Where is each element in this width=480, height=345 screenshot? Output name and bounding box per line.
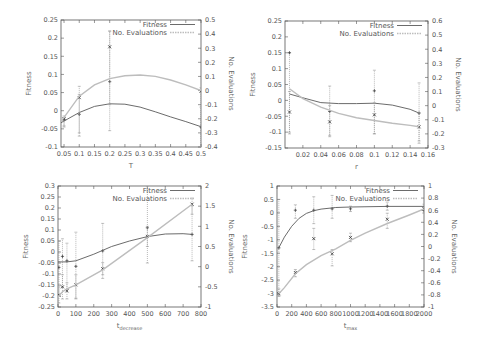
figure-grid: 0.050.10.150.20.250.30.350.40.450.5-0.1-… [0,0,480,345]
x-tick-label: 0.02 [296,151,310,159]
y2-tick-label: 1 [428,182,432,190]
y-tick-label: -1.5 [261,250,274,258]
y-tick-label: 1 [270,182,274,190]
fitness-marker [277,246,280,249]
y-axis-label: Fitness [25,71,33,96]
y2-axis-label: No. Evaluations [454,57,462,112]
y-tick-label: 0.1 [272,65,282,73]
y-tick-label: -0.2 [42,292,55,300]
fitness-curve [290,94,420,113]
x-tick-label: 400 [123,310,135,318]
y2-tick-label: 0 [205,263,209,271]
x-tick-label: 0.4 [165,150,175,158]
y2-tick-label: 0.6 [432,17,442,25]
y-tick-label: 0 [54,107,58,115]
y-axis-label: Fitness [249,72,257,97]
fitness-marker [74,265,77,268]
y2-tick-label: 0 [428,243,432,251]
y-tick-label: -0.1 [42,270,55,278]
x-axis-label: tdecrease [117,322,143,331]
y2-tick-label: 2 [205,182,209,190]
y2-tick-label: -0.5 [205,283,218,291]
y-tick-label: -0.05 [265,113,282,121]
x-tick-label: 700 [177,310,189,318]
fitness-curve [61,104,201,127]
x-tick-label: 400 [300,310,312,318]
y2-tick-label: 0.2 [432,74,442,82]
y-tick-label: 0.5 [264,196,274,204]
y2-tick-label: 0.5 [205,243,215,251]
y-tick-label: 0.15 [44,53,58,61]
y2-tick-label: -0.3 [205,129,218,137]
legend-entry: Fitness [143,21,168,29]
x-tick-label: 600 [159,310,171,318]
x-tick-label: 200 [88,310,100,318]
y2-tick-label: 0.8 [428,194,438,202]
y-tick-label: -0.05 [38,259,55,267]
x-tick-label: 0.12 [385,151,399,159]
x-tick-label: 0.25 [118,150,132,158]
x-tick-label: 800 [330,310,342,318]
evaluations-marker [312,237,315,240]
y2-tick-label: -0.2 [205,115,218,123]
x-tick-label: 0.14 [403,151,417,159]
y2-axis-label: No. Evaluations [227,56,235,111]
y2-tick-label: -1 [428,303,434,311]
y-tick-label: 0.3 [45,182,55,190]
x-axis-label: tmax [344,322,358,331]
y2-axis-label: No. Evaluations [227,219,235,274]
x-tick-label: 0.35 [148,150,162,158]
legend-entry: No. Evaluations [336,195,391,203]
fitness-marker [288,51,291,54]
y-tick-label: -2 [268,263,274,271]
x-tick-label: 0.1 [74,150,84,158]
y2-tick-label: -0.3 [432,144,445,152]
y2-tick-label: 0.2 [428,231,438,239]
y-tick-label: 0 [270,209,274,217]
y2-tick-label: -0.2 [432,130,445,138]
fitness-marker [349,207,352,210]
legend-entry: Fitness [366,187,391,195]
y2-tick-label: 0.4 [428,219,438,227]
y2-tick-label: 0.4 [205,30,215,38]
y-tick-label: -0.5 [261,223,274,231]
y2-tick-label: 0 [432,102,436,110]
x-tick-label: 0 [56,310,60,318]
legend-entry: No. Evaluations [340,30,395,38]
plot-frame [277,186,424,307]
plot-frame [285,21,428,148]
y-tick-label: 0.2 [48,34,58,42]
plot-tmax: 0200400600800100012001400160018002000-3.… [241,182,458,331]
plot-tdecrease: 0100200300400500600700800-0.25-0.2-0.15-… [22,182,235,331]
x-tick-label: 0.08 [349,151,363,159]
plot-frame [58,186,201,307]
y2-tick-label: -0.6 [428,279,441,287]
y-tick-label: 0.2 [45,204,55,212]
x-tick-label: 0.04 [314,151,328,159]
y2-tick-label: 0.2 [205,59,215,67]
y2-tick-label: 0.5 [432,31,442,39]
legend-entry: No. Evaluations [113,29,168,37]
y-tick-label: 0.15 [41,215,55,223]
legend-entry: No. Evaluations [113,195,168,203]
y-tick-label: -1 [268,236,274,244]
x-tick-label: 0.3 [135,150,145,158]
x-tick-label: 0.1 [369,151,379,159]
y-tick-label: -3 [268,290,274,298]
fitness-marker [61,255,64,258]
plot-r: 0.020.040.060.080.10.120.140.16-0.15-0.1… [249,17,462,171]
y-tick-label: 0.2 [272,33,282,41]
x-axis-label: T [128,162,134,170]
y2-tick-label: 1 [205,223,209,231]
y-axis-label: Fitness [22,234,30,259]
y-tick-label: -0.1 [45,143,58,151]
fitness-curve [58,234,192,262]
y2-tick-label: -0.1 [432,116,445,124]
evaluations-curve [61,75,201,122]
fitness-marker [373,89,376,92]
evaluations-marker [61,285,64,288]
y2-tick-label: 0 [205,87,209,95]
y-tick-label: -0.15 [265,144,282,152]
y2-tick-label: 1.5 [205,202,215,210]
y-tick-label: -0.25 [38,303,55,311]
